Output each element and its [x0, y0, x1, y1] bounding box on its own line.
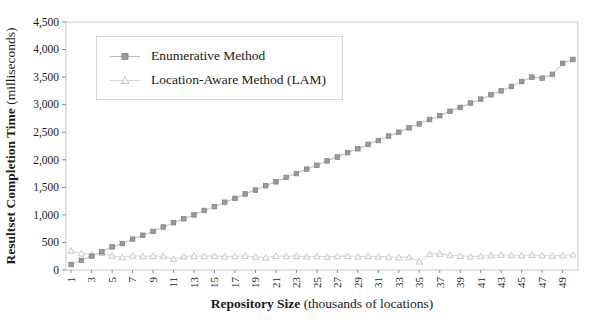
x-tick-label: 27 [331, 277, 343, 289]
enumerative-data-point [294, 171, 299, 176]
enumerative-data-point [130, 237, 135, 242]
enumerative-data-point [550, 72, 555, 77]
enumerative-data-point [571, 57, 576, 62]
enumerative-data-point [519, 79, 524, 84]
x-tick-label: 33 [393, 277, 405, 289]
enumerative-data-point [141, 233, 146, 238]
x-tick-label: 49 [556, 277, 568, 289]
y-tick-label: 4,500 [33, 16, 59, 29]
x-tick-label: 9 [147, 277, 159, 283]
x-tick-label: 17 [229, 277, 241, 289]
x-tick-label: 47 [536, 277, 548, 289]
y-tick-label: 1,000 [33, 209, 59, 222]
legend-label-enumerative: Enumerative Method [151, 48, 265, 64]
x-tick-label: 29 [352, 277, 364, 289]
enumerative-data-point [560, 61, 565, 66]
enumerative-data-point [458, 105, 463, 110]
y-axis-title-main: Resultset Completion Time [3, 108, 18, 264]
enumerative-data-point [540, 76, 545, 81]
x-tick-label: 21 [270, 277, 282, 288]
x-axis-title-main: Repository Size [211, 296, 301, 311]
x-tick-label: 23 [290, 277, 302, 289]
y-tick-label: 3,000 [33, 98, 59, 111]
y-tick-label: 1,500 [33, 181, 59, 194]
enumerative-data-point [110, 245, 115, 250]
y-tick-label: 2,000 [33, 154, 59, 167]
x-tick-label: 35 [413, 277, 425, 289]
x-tick-label: 7 [126, 277, 138, 283]
x-tick-label: 1 [65, 277, 77, 283]
y-tick-label: 4,000 [33, 43, 59, 56]
enumerative-data-point [376, 138, 381, 143]
x-tick-label: 15 [208, 277, 220, 289]
y-tick-label: 0 [53, 264, 59, 276]
x-axis-title: Repository Size (thousands of locations) [66, 296, 578, 312]
enumerative-data-point [499, 89, 504, 94]
enumerative-data-point [335, 155, 340, 160]
y-tick-label: 2,500 [33, 126, 59, 139]
x-tick-label: 31 [372, 277, 384, 288]
enumerative-data-point [366, 142, 371, 147]
x-tick-label: 13 [188, 277, 200, 289]
enumerative-data-point [417, 122, 422, 127]
enumerative-data-point [253, 188, 258, 193]
y-axis-title-units: (milliseconds) [3, 28, 18, 109]
enumerative-data-point [79, 258, 84, 263]
enumerative-data-point [212, 204, 217, 209]
enumerative-data-point [100, 250, 105, 255]
enumerative-data-point [325, 159, 330, 164]
enumerative-data-point [386, 134, 391, 139]
enumerative-data-point [509, 84, 514, 89]
enumerative-data-point [274, 180, 279, 185]
enumerative-data-point [222, 200, 227, 205]
x-tick-label: 41 [475, 277, 487, 288]
x-axis-title-units: (thousands of locations) [300, 296, 433, 311]
x-tick-label: 43 [495, 277, 507, 289]
enumerative-data-point [530, 75, 535, 80]
enumerative-data-point [263, 183, 268, 188]
legend-item-enumerative: Enumerative Method [109, 44, 326, 68]
enumerative-data-point [69, 262, 74, 267]
enumerative-data-point [315, 163, 320, 168]
enumerative-data-point [489, 92, 494, 97]
x-tick-label: 11 [167, 277, 179, 288]
legend-label-lam: Location-Aware Method (LAM) [151, 72, 326, 88]
enumerative-data-point [120, 241, 125, 246]
lam-series-marker-icon [109, 75, 141, 86]
x-tick-label: 19 [249, 277, 261, 289]
enumerative-data-point [345, 150, 350, 155]
x-tick-label: 3 [85, 277, 97, 283]
legend-item-lam: Location-Aware Method (LAM) [109, 68, 326, 92]
enumerative-data-point [437, 113, 442, 118]
x-tick-label: 39 [454, 277, 466, 289]
x-tick-label: 37 [434, 277, 446, 289]
enumerative-data-point [448, 109, 453, 114]
enumerative-data-point [243, 192, 248, 197]
enumerative-data-point [161, 225, 166, 230]
x-tick-label: 5 [106, 277, 118, 283]
enumerative-data-point [304, 167, 309, 172]
y-tick-label: 500 [42, 236, 60, 248]
enumerative-data-point [192, 213, 197, 218]
enumerative-data-point [151, 229, 156, 234]
enumerative-data-point [89, 254, 94, 259]
enumerative-data-point [468, 101, 473, 106]
enumerative-data-point [478, 97, 483, 102]
y-tick-label: 3,500 [33, 71, 59, 84]
enumerative-data-point [407, 126, 412, 131]
enumerative-data-point [284, 175, 289, 180]
enumerative-data-point [397, 130, 402, 135]
enumerative-data-point [171, 220, 176, 225]
legend-box: Enumerative Method Location-Aware Method… [96, 36, 343, 100]
line-chart-figure: 05001,0001,5002,0002,5003,0003,5004,0004… [0, 0, 589, 325]
enumerative-data-point [233, 196, 238, 201]
x-tick-label: 45 [515, 277, 527, 289]
enumerative-data-point [202, 208, 207, 213]
enumerative-data-point [427, 117, 432, 122]
enumerative-data-point [356, 146, 361, 151]
enumerative-data-point [181, 216, 186, 221]
x-tick-label: 25 [311, 277, 323, 289]
y-axis-title: Resultset Completion Time (milliseconds) [3, 28, 19, 265]
enumerative-series-marker-icon [109, 51, 141, 62]
